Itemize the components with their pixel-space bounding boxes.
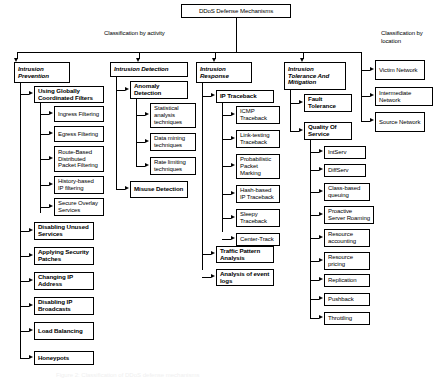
arrow-right-secure-overlay-services	[49, 204, 53, 208]
category-intrusion-tolerance-and-mitigation-label: Intrusion Tolerance And Mitigation	[288, 66, 342, 87]
arrow-right-quality-of-service	[299, 128, 303, 132]
connector-subspine-ip-traceback	[222, 103, 223, 232]
category-intrusion-prevention-label: Intrusion Prevention	[18, 66, 66, 80]
arrow-right-pushback	[319, 296, 323, 300]
node-applying-security-patches-label: Applying Security Patches	[38, 249, 90, 263]
root-node-ddos-defense-mechanisms: DDoS Defense Mechanisms	[181, 4, 291, 18]
connector-to-victim-network	[361, 70, 370, 71]
arrow-right-diffserv	[319, 167, 323, 171]
arrow-right-proactive-server-roaming	[319, 212, 323, 216]
node-hash-based-ip-traceback-label: Hash-based IP Traceback	[240, 187, 276, 200]
arrow-right-honeypots	[29, 355, 33, 359]
connector-spine-intrusion-tolerance	[290, 90, 291, 132]
connector-to-applying-security-patches	[20, 256, 29, 257]
connector-to-center-track	[222, 239, 231, 240]
arrow-right-applying-security-patches	[29, 253, 33, 257]
label-classification-by-activity: Classification by activity	[104, 30, 165, 38]
arrow-right-intserv	[319, 149, 323, 153]
node-fault-tolerance: Fault Tolerance	[304, 94, 352, 112]
connector-spine-intrusion-prevention	[20, 83, 21, 358]
node-probabilistic-packet-marking-label: Probabilistic Packet Marking	[240, 156, 276, 176]
connector-to-intermediate-network	[361, 96, 370, 97]
node-center-track-label: Center-Track	[240, 236, 276, 243]
connector-activity-bus	[17, 52, 362, 53]
arrow-right-link-testing-traceback	[231, 136, 235, 140]
arrow-right-rate-limiting-techniques	[145, 163, 149, 167]
connector-to-using-globally-coordinated-filters	[20, 94, 29, 95]
node-disabling-ip-broadcasts: Disabling IP Broadcasts	[34, 297, 94, 315]
node-resource-accounting: Resource accounting	[324, 229, 370, 247]
connector-to-diffserv	[310, 170, 319, 171]
connector-root-stem	[236, 18, 237, 52]
arrow-right-center-track	[231, 236, 235, 240]
node-sleepy-traceback-label: Sleepy Traceback	[240, 211, 276, 224]
node-secure-overlay-services: Secure Overlay Services	[54, 198, 104, 216]
connector-to-quality-of-service	[290, 131, 299, 132]
node-analysis-of-event-logs: Analysis of event logs	[216, 269, 274, 286]
category-intrusion-detection: Intrusion Detection	[110, 62, 188, 77]
node-intermediate-network-label: Intermediate Network	[379, 90, 429, 103]
node-applying-security-patches: Applying Security Patches	[34, 247, 94, 265]
node-anomaly-detection-label: Anomaly Detection	[134, 83, 184, 97]
arrow-right-history-based-ip-filtering	[49, 182, 53, 186]
connector-to-resource-pricing	[310, 261, 319, 262]
connector-to-route-based-distributed-packet-filtering	[40, 159, 49, 160]
node-icmp-traceback-label: ICMP Traceback	[240, 108, 276, 121]
node-ingress-filtering: Ingress Filtering	[54, 106, 104, 122]
node-disabling-unused-services-label: Disabling Unused Services	[38, 224, 90, 238]
figure-caption: Figure 2: Classification of DDoS defense…	[56, 372, 199, 378]
category-intrusion-response: Intrusion Response	[196, 62, 252, 83]
connector-to-disabling-unused-services	[20, 231, 29, 232]
category-intrusion-response-label: Intrusion Response	[200, 66, 248, 80]
arrow-right-data-mining-techniques	[145, 139, 149, 143]
node-route-based-distributed-packet-filtering-label: Route-Based Distributed Packet Filtering	[58, 149, 100, 169]
arrow-right-disabling-unused-services	[29, 228, 33, 232]
connector-to-data-mining-techniques	[136, 142, 145, 143]
connector-to-source-network	[361, 121, 370, 122]
connector-to-rate-limiting-techniques	[136, 166, 145, 167]
node-link-testing-traceback: Link-testing Traceback	[236, 130, 280, 148]
connector-to-anomaly-detection	[116, 90, 125, 91]
connector-to-analysis-of-event-logs	[202, 277, 211, 278]
connector-to-history-based-ip-filtering	[40, 185, 49, 186]
ddos-defense-taxonomy-diagram: DDoS Defense Mechanisms Classification b…	[0, 0, 446, 381]
node-resource-pricing-label: Resource pricing	[328, 254, 366, 267]
connector-location-branch-drop	[361, 52, 362, 70]
arrow-right-changing-ip-address	[29, 278, 33, 282]
node-ingress-filtering-label: Ingress Filtering	[58, 111, 100, 118]
arrow-right-throttling	[319, 315, 323, 319]
connector-to-resource-accounting	[310, 238, 319, 239]
arrow-right-misuse-detection	[125, 186, 129, 190]
connector-to-replication	[310, 280, 319, 281]
arrow-right-route-based-distributed-packet-filtering	[49, 156, 53, 160]
connector-to-intserv	[310, 152, 319, 153]
node-intermediate-network: Intermediate Network	[375, 87, 433, 106]
arrow-right-resource-accounting	[319, 235, 323, 239]
category-intrusion-tolerance-and-mitigation: Intrusion Tolerance And Mitigation	[284, 62, 346, 90]
category-intrusion-prevention: Intrusion Prevention	[14, 62, 70, 83]
node-throttling-label: Throttling	[328, 315, 366, 322]
node-replication: Replication	[324, 274, 370, 287]
node-replication-label: Replication	[328, 277, 366, 284]
node-proactive-server-roaming: Proactive Server Roaming	[324, 206, 374, 224]
node-changing-ip-address-label: Changing IP Address	[38, 274, 90, 288]
node-proactive-server-roaming-label: Proactive Server Roaming	[328, 208, 370, 221]
node-route-based-distributed-packet-filtering: Route-Based Distributed Packet Filtering	[54, 146, 104, 172]
node-history-based-ip-filtering: History-based IP filtering	[54, 176, 104, 194]
arrow-right-anomaly-detection	[125, 87, 129, 91]
connector-to-load-balancing	[20, 331, 29, 332]
connector-to-sleepy-traceback	[222, 218, 231, 219]
node-statistical-analysis-techniques-label: Statistical analysis techniques	[154, 105, 192, 125]
node-traffic-pattern-analysis-label: Traffic Pattern Analysis	[220, 248, 270, 262]
arrow-right-sleepy-traceback	[231, 215, 235, 219]
node-source-network: Source Network	[375, 112, 425, 132]
node-rate-limiting-techniques: Rate limiting techniques	[150, 157, 196, 175]
connector-to-changing-ip-address	[20, 281, 29, 282]
node-egress-filtering-label: Egress Filtering	[58, 131, 100, 138]
node-traffic-pattern-analysis: Traffic Pattern Analysis	[216, 246, 274, 263]
connector-subspine-anomaly-detection	[136, 99, 137, 167]
node-victim-network: Victim Network	[375, 60, 425, 80]
node-probabilistic-packet-marking: Probabilistic Packet Marking	[236, 154, 280, 179]
connector-to-icmp-traceback	[222, 115, 231, 116]
connector-to-proactive-server-roaming	[310, 215, 319, 216]
